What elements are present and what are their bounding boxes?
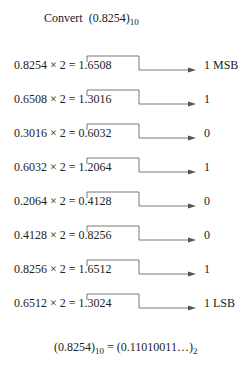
step-row: 0.8254 × 2 = 1.6508 1 MSB: [0, 46, 248, 82]
step-bit: 0: [204, 126, 210, 141]
result-rhs-base: 2: [193, 346, 198, 356]
step-bit: 0: [204, 228, 210, 243]
step-equation: 0.2064 × 2 = 0.4128: [14, 194, 112, 209]
step-bit: 0: [204, 194, 210, 209]
step-bit: 1 MSB: [204, 58, 238, 73]
step-equation: 0.3016 × 2 = 0.6032: [14, 126, 112, 141]
result-equals: =: [104, 340, 117, 354]
result-lhs-base: 10: [95, 346, 104, 356]
step-equation: 0.4128 × 2 = 0.8256: [14, 228, 112, 243]
result-rhs: (0.11010011…): [117, 340, 193, 354]
step-equation: 0.8254 × 2 = 1.6508: [14, 58, 112, 73]
step-equation: 0.6512 × 2 = 1.3024: [14, 296, 112, 311]
title-base: 10: [130, 17, 139, 27]
step-bit: 1 LSB: [204, 296, 235, 311]
step-bit: 1: [204, 262, 210, 277]
step-row: 0.6032 × 2 = 1.2064 1: [0, 148, 248, 184]
step-row: 0.3016 × 2 = 0.6032 0: [0, 114, 248, 150]
step-row: 0.2064 × 2 = 0.4128 0: [0, 182, 248, 218]
title-value: (0.8254): [89, 11, 130, 25]
step-equation: 0.8256 × 2 = 1.6512: [14, 262, 112, 277]
step-row: 0.6512 × 2 = 1.3024 1 LSB: [0, 284, 248, 320]
result-lhs: (0.8254): [54, 340, 95, 354]
step-bit: 1: [204, 160, 210, 175]
step-equation: 0.6032 × 2 = 1.2064: [14, 160, 112, 175]
step-row: 0.8256 × 2 = 1.6512 1: [0, 250, 248, 286]
step-row: 0.4128 × 2 = 0.8256 0: [0, 216, 248, 252]
title-prefix: Convert: [44, 11, 83, 25]
step-row: 0.6508 × 2 = 1.3016 1: [0, 80, 248, 116]
diagram-title: Convert (0.8254)10: [44, 11, 139, 27]
step-bit: 1: [204, 92, 210, 107]
step-equation: 0.6508 × 2 = 1.3016: [14, 92, 112, 107]
result-equation: (0.8254)10 = (0.11010011…)2: [54, 340, 197, 356]
